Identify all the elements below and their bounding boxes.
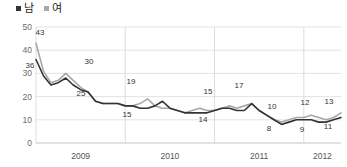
svg-text:2011: 2011 bbox=[250, 151, 269, 161]
data-point-labels: 4336302519151514171081291311 bbox=[26, 28, 334, 134]
svg-text:50: 50 bbox=[23, 22, 33, 32]
svg-text:12: 12 bbox=[301, 98, 310, 107]
svg-text:10: 10 bbox=[23, 115, 33, 125]
svg-text:19: 19 bbox=[127, 77, 136, 86]
line-chart: 남 여 01020304050 433630251915151417108129… bbox=[0, 0, 347, 167]
svg-text:36: 36 bbox=[26, 61, 35, 70]
svg-text:40: 40 bbox=[23, 45, 33, 55]
svg-text:20: 20 bbox=[23, 92, 33, 102]
svg-text:43: 43 bbox=[36, 28, 45, 37]
svg-text:2009: 2009 bbox=[71, 151, 90, 161]
svg-text:17: 17 bbox=[235, 81, 244, 90]
svg-text:10: 10 bbox=[268, 102, 277, 111]
svg-text:15: 15 bbox=[123, 110, 132, 119]
y-gridlines bbox=[36, 27, 341, 143]
x-axis-ticks: 2009201020112012 bbox=[71, 151, 332, 161]
svg-text:9: 9 bbox=[300, 125, 305, 134]
svg-text:15: 15 bbox=[204, 87, 213, 96]
svg-text:13: 13 bbox=[325, 97, 334, 106]
chart-plot-area: 01020304050 4336302519151514171081291311… bbox=[0, 0, 347, 167]
data-series-group bbox=[36, 43, 341, 124]
y-axis-ticks: 01020304050 bbox=[23, 22, 33, 148]
svg-text:11: 11 bbox=[324, 122, 333, 131]
svg-text:30: 30 bbox=[85, 57, 94, 66]
svg-text:2012: 2012 bbox=[313, 151, 332, 161]
svg-text:0: 0 bbox=[27, 138, 32, 148]
x-gridlines bbox=[36, 27, 304, 143]
svg-text:14: 14 bbox=[199, 115, 208, 124]
svg-text:2010: 2010 bbox=[160, 151, 179, 161]
svg-text:25: 25 bbox=[77, 89, 86, 98]
svg-text:8: 8 bbox=[267, 124, 272, 133]
